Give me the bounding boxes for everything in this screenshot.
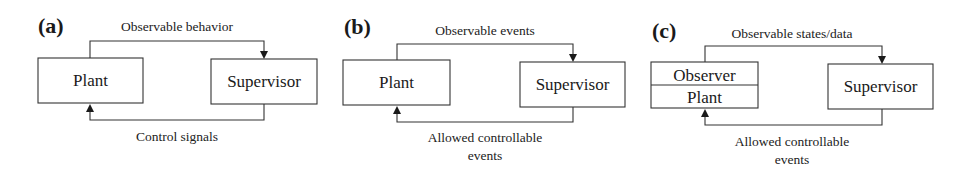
observation-wire: [397, 44, 573, 60]
supervisor-label: Supervisor: [536, 75, 610, 94]
bottom-edge-label-line-1: Allowed controllable: [735, 134, 849, 149]
arrow-down-icon: [569, 54, 577, 62]
bottom-edge-label-line-1: Allowed controllable: [428, 130, 542, 145]
plant-label: Plant: [73, 71, 108, 90]
control-wire: [705, 109, 882, 125]
supervisor-label: Supervisor: [844, 77, 918, 96]
plant-label: Plant: [687, 88, 722, 107]
observer-label: Observer: [673, 66, 736, 85]
control-wire: [397, 107, 573, 122]
bottom-edge-label-line-2: events: [775, 152, 810, 167]
bottom-edge-label-line-2: events: [468, 148, 503, 163]
arrow-down-icon: [878, 56, 886, 64]
supervisory-control-diagram: (a) Observable behavior Plant Supervisor…: [0, 0, 969, 175]
panel-label: (c): [652, 18, 676, 43]
panel-b: (b) Observable events Plant Supervisor A…: [343, 14, 625, 163]
arrow-up-icon: [86, 104, 94, 112]
control-wire: [90, 104, 264, 120]
observation-wire: [90, 41, 264, 58]
panel-label: (b): [344, 14, 371, 39]
top-edge-label: Observable states/data: [731, 26, 852, 41]
bottom-edge-label: Control signals: [136, 129, 218, 144]
arrow-down-icon: [260, 51, 268, 59]
top-edge-label: Observable events: [435, 23, 534, 38]
top-edge-label: Observable behavior: [121, 19, 234, 34]
panel-label: (a): [38, 13, 64, 38]
arrow-up-icon: [701, 109, 709, 117]
supervisor-label: Supervisor: [227, 72, 301, 91]
arrow-up-icon: [393, 106, 401, 114]
observation-wire: [705, 46, 882, 62]
panel-c: (c) Observable states/data Observer Plan…: [651, 18, 933, 167]
plant-label: Plant: [379, 73, 414, 92]
panel-a: (a) Observable behavior Plant Supervisor…: [38, 13, 317, 144]
